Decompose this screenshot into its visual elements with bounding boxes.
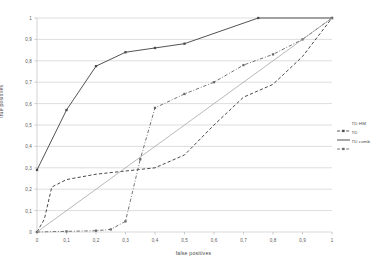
x-tick-label: 0,6 — [211, 238, 218, 243]
y-tick-label: 1 — [0, 16, 32, 21]
x-tick-label: 0,1 — [63, 238, 70, 243]
x-tick-label: 0,5 — [181, 238, 188, 243]
legend-item: TD comb — [337, 138, 370, 144]
series-marker — [95, 230, 97, 232]
y-tick-label: 0,6 — [0, 101, 32, 106]
y-tick-label: 0,8 — [0, 58, 32, 63]
series-marker — [36, 169, 38, 171]
x-tick-label: 0,8 — [270, 238, 277, 243]
x-tick-label: 0,9 — [299, 238, 306, 243]
plot-area — [37, 18, 332, 232]
x-tick-label: 0,2 — [93, 238, 100, 243]
series-line — [37, 18, 332, 232]
roc-chart: 00,10,20,30,40,50,60,70,80,91 00,10,20,3… — [0, 0, 387, 266]
y-tick-label: 0,3 — [0, 165, 32, 170]
series-marker — [95, 65, 97, 67]
series-marker — [139, 158, 141, 160]
y-tick-label: 0,5 — [0, 123, 32, 128]
x-tick-label: 0,4 — [152, 238, 159, 243]
series-marker — [65, 109, 67, 111]
series-lines — [37, 18, 332, 232]
series-marker — [257, 17, 259, 19]
y-tick-label: 0 — [0, 230, 32, 235]
x-tick-label: 0 — [36, 238, 39, 243]
legend-label: TD — [352, 130, 358, 135]
y-tick-label: 0,7 — [0, 80, 32, 85]
y-axis-label: true positives — [0, 85, 4, 118]
series-marker — [183, 93, 185, 95]
series-marker — [154, 107, 156, 109]
y-tick-label: 0,9 — [0, 37, 32, 42]
series-marker — [110, 228, 112, 230]
legend: TD HMTDTD comb — [337, 120, 370, 144]
x-tick-label: 0,3 — [122, 238, 129, 243]
series-marker — [272, 53, 274, 55]
legend-label: TD HM — [352, 121, 366, 126]
legend-swatch — [337, 120, 350, 126]
x-tick-label: 0,7 — [240, 238, 247, 243]
series-marker — [124, 51, 126, 53]
series-marker — [242, 64, 244, 66]
legend-label: TD comb — [352, 139, 371, 144]
x-tick-label: 1 — [331, 238, 334, 243]
y-tick-label: 0,1 — [0, 208, 32, 213]
series-marker — [124, 220, 126, 222]
series-marker — [65, 230, 67, 232]
series-marker — [213, 81, 215, 83]
legend-item: TD — [337, 129, 370, 135]
y-tick-label: 0,2 — [0, 187, 32, 192]
legend-swatch — [337, 129, 350, 135]
series-marker — [183, 43, 185, 45]
x-axis-label: false positives — [0, 250, 387, 256]
legend-item: TD HM — [337, 120, 370, 126]
series-marker — [154, 47, 156, 49]
legend-swatch — [337, 138, 350, 144]
y-tick-label: 0,4 — [0, 144, 32, 149]
